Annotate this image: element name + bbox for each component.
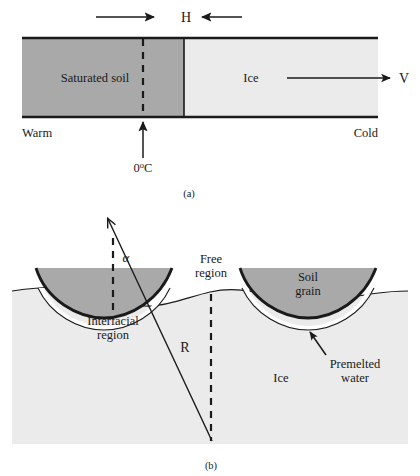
ice-label-b: Ice	[273, 371, 289, 385]
free-region-line1: Free	[200, 252, 223, 266]
freezing-temp-label: 0oC	[134, 160, 153, 175]
panel-a: H Saturated soil Ice V Warm Cold	[22, 10, 409, 200]
caption-a: (a)	[183, 188, 195, 200]
caption-b: (b)	[205, 460, 218, 472]
figure-container: H Saturated soil Ice V Warm Cold	[0, 0, 420, 476]
interfacial-line1: Interfacial	[87, 314, 139, 328]
warm-label: Warm	[22, 126, 53, 140]
saturated-soil-label: Saturated soil	[61, 71, 130, 85]
freezing-temp-unit: C	[144, 161, 152, 175]
cold-label: Cold	[354, 126, 379, 140]
premelted-line2: water	[341, 371, 370, 385]
soil-grain-label: Soil grain	[295, 270, 321, 298]
soil-grain-line1: Soil	[298, 270, 319, 284]
panel-b: α R Free region Interfacial region Soil …	[12, 219, 408, 472]
velocity-label: V	[399, 71, 409, 86]
premelted-line1: Premelted	[330, 357, 381, 371]
freezing-temperature-callout: 0oC	[134, 122, 153, 175]
radius-label: R	[180, 340, 190, 355]
free-region-line2: region	[195, 266, 228, 280]
interfacial-line2: region	[97, 328, 130, 342]
free-region-label: Free region	[195, 252, 228, 280]
heat-flux-annotation: H	[96, 10, 242, 25]
alpha-label: α	[123, 250, 131, 265]
ice-label-a: Ice	[243, 71, 259, 85]
soil-grain-line2: grain	[295, 284, 321, 298]
premelting-frost-heave-figure: H Saturated soil Ice V Warm Cold	[0, 0, 420, 476]
heat-label: H	[181, 10, 191, 25]
